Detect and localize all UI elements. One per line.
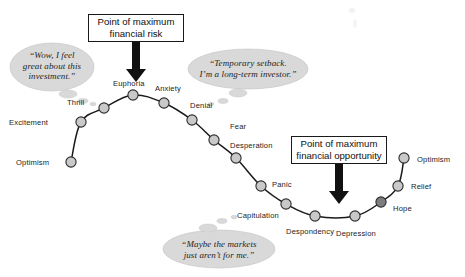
node-label-panic-8: Panic: [272, 181, 292, 189]
bubble-capitulation-tail-2: [217, 219, 227, 224]
emotion-node-optimism-14: [399, 153, 409, 163]
bubble-capitulation-text: “Maybe the markets just aren’t for me.”: [163, 239, 275, 260]
bubble-setback-tail-1: [229, 89, 247, 97]
emotion-node-desperation-7: [231, 153, 241, 163]
node-label-denial-5: Denial: [190, 102, 212, 110]
callout-line2-max-risk: financial risk: [110, 28, 163, 39]
bubble-optimistic-text: “Wow, I feel great about this investment…: [12, 50, 92, 82]
callout-box-max-opportunity: Point of maximumfinancial opportunity: [291, 136, 387, 164]
node-label-fear-6: Fear: [230, 123, 246, 131]
emotion-node-thrill-2: [99, 103, 109, 113]
node-label-depression-11: Depression: [336, 230, 376, 238]
emotion-node-denial-5: [187, 115, 197, 125]
emotion-node-relief-13: [393, 181, 403, 191]
bubble-setback-tail-2: [218, 99, 228, 104]
node-label-thrill-2: Thrill: [67, 99, 84, 107]
emotion-node-despondency-10: [310, 211, 320, 221]
bubble-optimistic-tail-3: [90, 102, 96, 106]
node-label-optimism-0: Optimism: [16, 159, 49, 167]
emotion-node-fear-6: [209, 135, 219, 145]
callout-line2-max-opportunity: financial opportunity: [296, 150, 381, 161]
node-label-hope-12: Hope: [393, 205, 412, 213]
investor-emotion-cycle-figure: OptimismExcitementThrillEuphoriaAnxietyD…: [0, 0, 465, 277]
emotion-node-optimism-0: [66, 157, 76, 167]
callout-arrow-shaft-max-risk: [132, 42, 140, 69]
node-label-anxiety-4: Anxiety: [155, 85, 181, 93]
emotion-node-euphoria-3: [128, 90, 138, 100]
node-label-excitement-1: Excitement: [9, 119, 48, 127]
emotion-node-panic-8: [256, 181, 266, 191]
figure-canvas: [0, 0, 465, 277]
node-label-euphoria-3: Euphoria: [113, 80, 145, 88]
node-label-despondency-10: Despondency: [286, 228, 334, 236]
node-label-relief-13: Relief: [411, 183, 431, 191]
emotion-node-hope-12: [376, 197, 386, 207]
emotion-node-depression-11: [350, 211, 360, 221]
callout-box-max-risk: Point of maximumfinancial risk: [88, 14, 184, 42]
bubble-optimistic-tail-1: [59, 90, 77, 98]
bubble-setback-text: “Temporary setback. I’m a long-term inve…: [186, 58, 310, 79]
emotion-node-anxiety-4: [159, 98, 169, 108]
callout-arrow-head-max-opportunity: [329, 191, 349, 204]
callout-arrow-shaft-max-opportunity: [335, 164, 343, 191]
callout-line1-max-risk: Point of maximum: [98, 16, 175, 27]
bubble-capitulation-tail-1: [199, 224, 217, 232]
emotion-node-excitement-1: [76, 117, 86, 127]
node-label-optimism-14: Optimism: [417, 156, 450, 164]
node-label-desperation-7: Desperation: [230, 142, 273, 150]
emotion-node-capitulation-9: [281, 199, 291, 209]
node-label-capitulation-9: Capitulation: [237, 212, 279, 220]
callout-line1-max-opportunity: Point of maximum: [301, 138, 378, 149]
